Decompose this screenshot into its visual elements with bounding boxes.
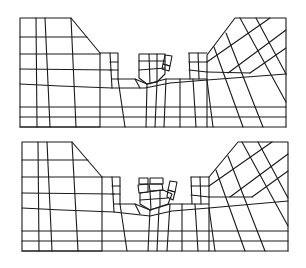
mesh-panel-bottom [0,134,306,268]
mesh-diagram-top [0,0,306,134]
mesh-diagram-bottom [0,134,306,268]
left-bank-outline [20,18,100,127]
mesh-panel-top [0,0,306,134]
